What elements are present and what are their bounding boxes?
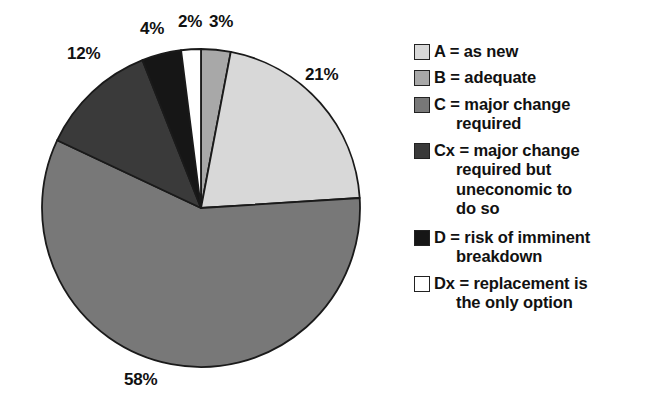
- pie-chart-figure: 21% 3% 58% 12% 4% 2% A = as newB = adequ…: [0, 0, 668, 417]
- legend-label-line3: uneconomic to: [434, 180, 579, 199]
- legend-label-b: B = adequate: [434, 68, 536, 87]
- pie-label-a: 21%: [305, 66, 338, 83]
- legend-label-line2: the only option: [434, 293, 588, 312]
- legend-label-line1: Cx = major change: [434, 141, 579, 159]
- legend-label-line2: required but: [434, 160, 579, 179]
- pie-plot-area: 21% 3% 58% 12% 4% 2%: [0, 0, 400, 417]
- legend-label-line1: D = risk of imminent: [434, 228, 590, 246]
- legend-label-line2: required: [434, 114, 570, 133]
- legend-label-dx: Dx = replacement isthe only option: [434, 274, 588, 313]
- legend-label-d: D = risk of imminentbreakdown: [434, 228, 590, 267]
- legend-label-line4: do so: [434, 199, 579, 218]
- legend-item-cx[interactable]: Cx = major changerequired butuneconomic …: [414, 141, 664, 219]
- legend-swatch-a-icon: [414, 44, 430, 60]
- pie-label-cx: 12%: [67, 45, 100, 62]
- legend-label-a: A = as new: [434, 42, 518, 61]
- legend-item-dx[interactable]: Dx = replacement isthe only option: [414, 274, 664, 313]
- legend-item-b[interactable]: B = adequate: [414, 68, 664, 87]
- pie-label-d: 4%: [140, 20, 164, 37]
- legend-swatch-c-icon: [414, 97, 430, 113]
- legend-label-c: C = major changerequired: [434, 95, 570, 134]
- legend: A = as newB = adequateC = major changere…: [414, 42, 664, 320]
- pie-slice-group: [42, 49, 360, 367]
- legend-label-line1: Dx = replacement is: [434, 274, 588, 292]
- legend-swatch-cx-icon: [414, 143, 430, 159]
- legend-item-d[interactable]: D = risk of imminentbreakdown: [414, 228, 664, 267]
- pie-label-b: 3%: [209, 13, 233, 30]
- legend-label-line1: C = major change: [434, 95, 570, 113]
- legend-swatch-d-icon: [414, 230, 430, 246]
- legend-swatch-dx-icon: [414, 276, 430, 292]
- legend-label-line1: A = as new: [434, 42, 518, 60]
- pie-svg: [0, 0, 400, 417]
- pie-label-dx: 2%: [178, 13, 202, 30]
- legend-label-line1: B = adequate: [434, 68, 536, 86]
- legend-item-c[interactable]: C = major changerequired: [414, 95, 664, 134]
- legend-label-line2: breakdown: [434, 247, 590, 266]
- legend-label-cx: Cx = major changerequired butuneconomic …: [434, 141, 579, 219]
- legend-item-a[interactable]: A = as new: [414, 42, 664, 61]
- pie-label-c: 58%: [124, 371, 157, 388]
- legend-swatch-b-icon: [414, 70, 430, 86]
